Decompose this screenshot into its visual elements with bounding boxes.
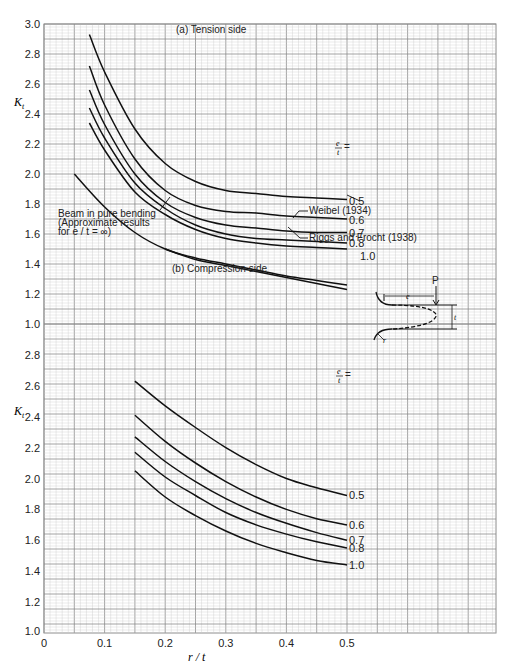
- svg-text:1.4: 1.4: [25, 565, 40, 577]
- svg-text:for e / t = ∞): for e / t = ∞): [58, 226, 111, 237]
- y-axis-ticks: 3.02.82.62.42.22.01.81.61.41.21.02.82.62…: [25, 18, 40, 637]
- svg-text:1.0: 1.0: [25, 625, 40, 637]
- svg-text:1.8: 1.8: [25, 198, 40, 210]
- load-P-label: P: [432, 275, 439, 286]
- svg-text:1.0: 1.0: [349, 559, 364, 571]
- svg-text:2.0: 2.0: [25, 168, 40, 180]
- x-axis-label: r / t: [188, 650, 206, 664]
- svg-text:0.5: 0.5: [339, 637, 354, 649]
- tension-title: (a) Tension side: [176, 24, 247, 35]
- svg-text:1.8: 1.8: [25, 503, 40, 515]
- svg-text:1.0: 1.0: [360, 250, 375, 262]
- y-axis-label-tension: Kt: [13, 95, 25, 111]
- x-axis-ticks: 00.10.20.30.40.5: [41, 637, 355, 649]
- svg-text:0.8: 0.8: [349, 542, 364, 554]
- svg-text:1.6: 1.6: [25, 228, 40, 240]
- svg-text:0: 0: [41, 637, 47, 649]
- svg-text:=: =: [344, 141, 350, 152]
- svg-text:0.2: 0.2: [158, 637, 173, 649]
- svg-text:2.8: 2.8: [25, 349, 40, 361]
- svg-text:0.1: 0.1: [97, 637, 112, 649]
- svg-text:2.8: 2.8: [25, 48, 40, 60]
- svg-text:2.4: 2.4: [25, 411, 40, 423]
- svg-text:Riggs and Frocht (1938): Riggs and Frocht (1938): [309, 232, 417, 243]
- y-axis-label-compression: Kt: [13, 404, 25, 420]
- svg-text:e: e: [336, 139, 340, 148]
- svg-text:2.2: 2.2: [25, 138, 40, 150]
- svg-text:1.2: 1.2: [25, 596, 40, 608]
- svg-text:1.6: 1.6: [25, 534, 40, 546]
- svg-text:2.4: 2.4: [25, 108, 40, 120]
- svg-text:2.6: 2.6: [25, 78, 40, 90]
- svg-text:1.2: 1.2: [25, 288, 40, 300]
- svg-text:e: e: [337, 367, 341, 376]
- eccentricity-e-label: e: [406, 292, 410, 301]
- stress-concentration-chart: 3.02.82.62.42.22.01.81.61.41.21.02.82.62…: [0, 0, 510, 670]
- svg-text:0.3: 0.3: [218, 637, 233, 649]
- svg-text:=: =: [345, 369, 351, 380]
- svg-text:0.6: 0.6: [349, 519, 364, 531]
- svg-text:Weibel (1934): Weibel (1934): [309, 205, 371, 216]
- svg-text:2.2: 2.2: [25, 442, 40, 454]
- svg-text:3.0: 3.0: [25, 18, 40, 30]
- svg-text:0.4: 0.4: [279, 637, 294, 649]
- svg-text:1.0: 1.0: [25, 318, 40, 330]
- svg-text:1.4: 1.4: [25, 258, 40, 270]
- compression-title: (b) Compression side: [172, 263, 267, 274]
- svg-text:0.5: 0.5: [349, 489, 364, 501]
- svg-text:2.0: 2.0: [25, 473, 40, 485]
- svg-text:2.6: 2.6: [25, 380, 40, 392]
